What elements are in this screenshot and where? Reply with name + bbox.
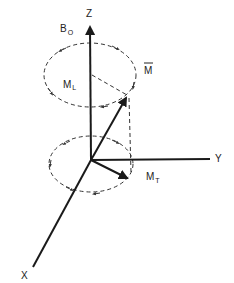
- z-axis: [90, 27, 91, 160]
- longitudinal-label: ML: [63, 79, 76, 91]
- vertical-projection-dashed: [129, 98, 131, 172]
- field-label: BO: [60, 23, 74, 36]
- x-axis: [33, 160, 91, 267]
- transverse-vector: [91, 160, 127, 178]
- precession-diagram: Z Y X BO M ML MT: [0, 0, 234, 283]
- magnetization-vector: [91, 98, 126, 160]
- field-label-main: B: [60, 23, 67, 34]
- z-axis-label: Z: [86, 8, 92, 19]
- transverse-label-sub: T: [155, 177, 160, 184]
- longitudinal-label-main: M: [63, 79, 71, 90]
- magnetization-label: M: [144, 65, 152, 76]
- x-axis-label: X: [21, 270, 28, 281]
- y-axis: [91, 159, 210, 160]
- transverse-label: MT: [146, 171, 160, 184]
- transverse-label-main: M: [146, 171, 154, 182]
- upper-radius-dashed: [92, 75, 127, 95]
- longitudinal-label-sub: L: [72, 84, 76, 91]
- magnetization-label-group: M: [144, 63, 153, 76]
- y-axis-label: Y: [215, 153, 222, 164]
- lower-ellipse-direction-arrows: [50, 140, 118, 194]
- field-label-sub: O: [68, 29, 74, 36]
